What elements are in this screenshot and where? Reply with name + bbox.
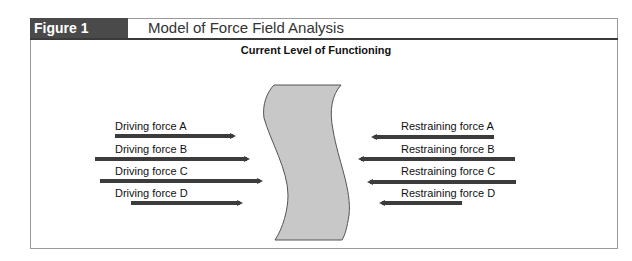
force-field-diagram: [0, 0, 632, 261]
restraining-force-a-label: Restraining force A: [401, 120, 494, 132]
restraining-force-d-label: Restraining force D: [401, 187, 495, 199]
restraining-force-c-label: Restraining force C: [401, 165, 495, 177]
driving-force-d-label: Driving force D: [115, 187, 188, 199]
driving-force-a-label: Driving force A: [115, 120, 187, 132]
current-level-banner: [264, 85, 350, 240]
driving-force-c-label: Driving force C: [115, 165, 188, 177]
restraining-force-b-label: Restraining force B: [401, 143, 495, 155]
driving-force-b-label: Driving force B: [115, 143, 187, 155]
